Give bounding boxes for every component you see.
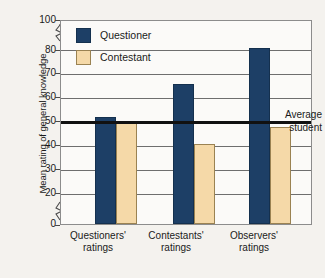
- x-label-line-2: ratings: [211, 242, 297, 254]
- x-axis-label-observers-ratings: Observers' ratings: [211, 230, 297, 254]
- y-tick-label-80: 80: [16, 45, 56, 55]
- x-label-line-1: Observers': [211, 230, 297, 242]
- x-label-line-1: Questioners': [55, 230, 141, 242]
- reference-line-average-student: [61, 121, 311, 124]
- chart-figure: Mean rating of general knowledge 100 80 …: [0, 0, 325, 278]
- y-tick-label-60: 60: [16, 92, 56, 102]
- y-tick-label-100: 100: [16, 15, 56, 25]
- x-axis-label-contestants-ratings: Contestants' ratings: [133, 230, 219, 254]
- legend: Questioner Contestant: [76, 24, 151, 68]
- x-label-line-2: ratings: [133, 242, 219, 254]
- reference-label-line-2: student: [285, 121, 322, 134]
- bar-questioner-observers-ratings: [249, 48, 270, 224]
- y-tick-label-30: 30: [16, 164, 56, 174]
- y-tick-label-50: 50: [16, 116, 56, 126]
- legend-label-contestant: Contestant: [100, 51, 151, 63]
- reference-line-annotation: Average student: [285, 108, 322, 134]
- gridline-70: [61, 74, 311, 75]
- bar-contestant-observers-ratings: [270, 127, 291, 224]
- bar-questioner-contestants-ratings: [173, 84, 194, 224]
- legend-item-questioner: Questioner: [76, 24, 151, 46]
- bar-contestant-questioners-ratings: [116, 122, 137, 224]
- y-tick-label-20: 20: [16, 188, 56, 198]
- y-tick-label-70: 70: [16, 68, 56, 78]
- y-tick-label-0: 0: [16, 219, 56, 229]
- x-label-line-2: ratings: [55, 242, 141, 254]
- x-axis-label-questioners-ratings: Questioners' ratings: [55, 230, 141, 254]
- bar-questioner-questioners-ratings: [95, 117, 116, 224]
- legend-swatch-questioner: [76, 28, 91, 43]
- legend-swatch-contestant: [76, 50, 91, 65]
- y-tick-label-40: 40: [16, 140, 56, 150]
- y-tick-mark-0: [55, 225, 60, 226]
- legend-label-questioner: Questioner: [100, 29, 151, 41]
- bar-contestant-contestants-ratings: [194, 144, 215, 224]
- legend-item-contestant: Contestant: [76, 46, 151, 68]
- x-label-line-1: Contestants': [133, 230, 219, 242]
- reference-label-line-1: Average: [285, 108, 322, 121]
